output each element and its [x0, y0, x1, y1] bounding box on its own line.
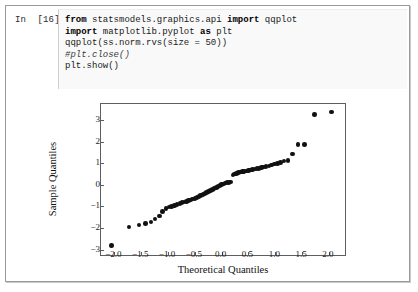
x-axis-tick-label: 1.0 — [269, 249, 280, 259]
y-axis-tick-label: 0 — [96, 179, 101, 189]
code-token: plt.show() — [65, 61, 119, 71]
y-axis-label: Sample Quantiles — [47, 142, 58, 216]
y-axis-tick-label: 3 — [96, 114, 101, 124]
scatter-points-layer — [101, 104, 345, 255]
scatter-point — [329, 110, 334, 115]
scatter-point — [228, 180, 233, 185]
x-axis-tick-label: 2.0 — [322, 249, 333, 259]
x-axis-tick-label: −1.0 — [159, 249, 175, 259]
code-line: #plt.close() — [65, 50, 297, 62]
scatter-point — [290, 152, 295, 157]
code-line: plt.show() — [65, 61, 297, 73]
notebook-cell-container: In [16]: from statsmodels.graphics.api i… — [5, 5, 410, 282]
plot-axes-frame — [100, 103, 346, 256]
x-axis-tick-label: 1.5 — [295, 249, 306, 259]
scatter-point — [157, 214, 162, 219]
x-axis-tick-label: −2.0 — [105, 249, 121, 259]
scatter-point — [143, 221, 148, 226]
scatter-point — [109, 243, 114, 248]
y-axis-tick — [100, 206, 104, 207]
x-axis-tick-label: −1.5 — [132, 249, 148, 259]
y-axis-tick-label: −2 — [90, 222, 100, 232]
x-axis-tick-label: 0.5 — [242, 249, 253, 259]
x-axis-tick-label: −0.5 — [186, 249, 202, 259]
code-token: import — [65, 27, 97, 37]
cell-output-area: Theoretical Quantiles Sample Quantiles −… — [6, 90, 409, 281]
code-line: import matplotlib.pyplot as plt — [65, 27, 297, 39]
code-token: matplotlib.pyplot — [97, 27, 200, 37]
x-axis-label: Theoretical Quantiles — [100, 264, 346, 275]
scatter-point — [312, 112, 317, 117]
code-token: statsmodels.graphics.api — [87, 15, 227, 25]
x-axis-tick-label: 0.0 — [215, 249, 226, 259]
code-line: qqplot(ss.norm.rvs(size = 50)) — [65, 38, 297, 50]
code-token: qqplot — [259, 15, 297, 25]
y-axis-tick — [100, 163, 104, 164]
cell-prompt-label: In [16]: — [15, 15, 59, 25]
scatter-point — [137, 223, 142, 228]
qq-plot-figure: Theoretical Quantiles Sample Quantiles −… — [30, 92, 360, 277]
y-axis-tick — [100, 185, 104, 186]
code-token: as — [200, 27, 211, 37]
code-input-area[interactable]: from statsmodels.graphics.api import qqp… — [58, 9, 407, 89]
scatter-point — [296, 142, 301, 147]
y-axis-tick-label: −3 — [90, 244, 100, 254]
y-axis-tick — [100, 120, 104, 121]
scatter-point — [127, 225, 132, 230]
y-axis-tick — [100, 250, 104, 251]
code-token: from — [65, 15, 87, 25]
code-token: plt — [211, 27, 233, 37]
y-axis-tick-label: −1 — [90, 200, 100, 210]
notebook-code-cell[interactable]: In [16]: from statsmodels.graphics.api i… — [6, 6, 409, 90]
code-line: from statsmodels.graphics.api import qqp… — [65, 15, 297, 27]
code-token: import — [227, 15, 259, 25]
y-axis-tick-label: 2 — [96, 136, 101, 146]
code-token: #plt.close() — [65, 50, 130, 60]
y-axis-tick-label: 1 — [96, 157, 101, 167]
code-editor-text[interactable]: from statsmodels.graphics.api import qqp… — [65, 15, 297, 73]
y-axis-tick — [100, 142, 104, 143]
scatter-point — [149, 220, 154, 225]
scatter-point — [286, 158, 291, 163]
y-axis-tick — [100, 228, 104, 229]
code-token: qqplot(ss.norm.rvs(size = 50)) — [65, 38, 227, 48]
scatter-point — [302, 142, 307, 147]
